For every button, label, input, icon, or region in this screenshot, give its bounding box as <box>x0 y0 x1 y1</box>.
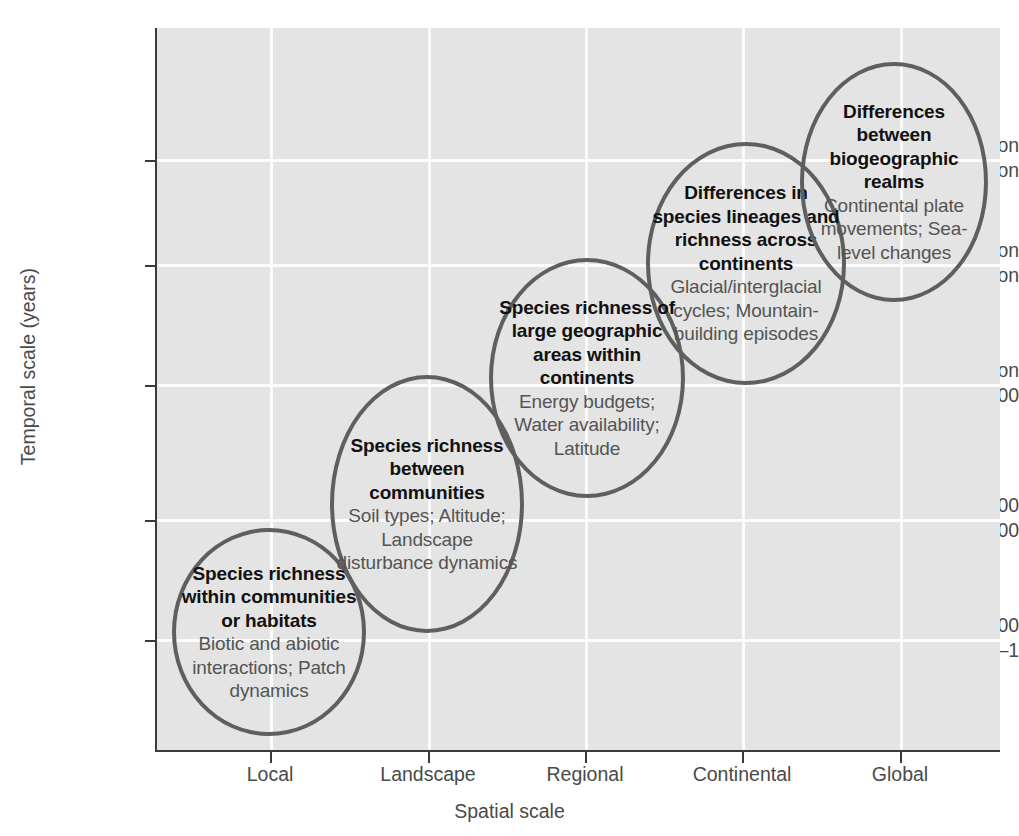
x-tick-label-continental: Continental <box>693 762 792 786</box>
bubble-detail: Glacial/interglacial cycles; Mountain-bu… <box>650 275 842 346</box>
bubble-detail: Continental plate movements; Sea-level c… <box>804 194 984 265</box>
y-axis-title: Temporal scale (years) <box>17 227 40 507</box>
bubble-detail: Biotic and abiotic interactions; Patch d… <box>176 632 362 703</box>
x-tick-label-regional: Regional <box>547 762 624 786</box>
x-tick-label-landscape: Landscape <box>380 762 475 786</box>
bubble-global: Differences between biogeographic realms… <box>800 62 988 302</box>
x-axis-title: Spatial scale <box>0 800 1019 823</box>
x-tick-label-global: Global <box>872 762 928 786</box>
bubble-detail: Energy budgets; Water availability; Lati… <box>493 390 681 461</box>
x-tick-label-local: Local <box>247 762 294 786</box>
horizontal-gridline <box>157 519 1000 522</box>
bubble-heading: Differences between biogeographic realms <box>804 100 984 194</box>
bubble-detail: Soil types; Altitude; Landscape disturba… <box>334 504 520 575</box>
scale-diagram-figure: Temporal scale (years) 250 million –40 m… <box>0 0 1019 836</box>
